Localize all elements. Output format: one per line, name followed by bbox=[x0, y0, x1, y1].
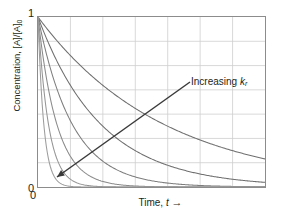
increasing-k-label: Increasing kr bbox=[191, 76, 247, 87]
figure-first-order-decay: Concentration, [A]/[A]0 1 0 0 Time, t → … bbox=[0, 0, 286, 216]
increasing-k-text: Increasing bbox=[191, 76, 237, 87]
annotation-layer bbox=[0, 0, 286, 216]
rate-constant-subscript: r bbox=[245, 80, 247, 87]
